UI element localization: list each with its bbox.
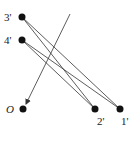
arrow-icon xyxy=(26,14,70,104)
point-p4 xyxy=(19,37,26,44)
point-label-p1: 1' xyxy=(121,115,129,127)
diagram-canvas: 3'4'O2'1' xyxy=(0,0,134,154)
point-label-p2: 2' xyxy=(97,115,105,127)
point-p3 xyxy=(19,14,26,21)
point-label-p4: 4' xyxy=(4,34,12,46)
edge-p4-p2 xyxy=(22,40,95,109)
edge-p3-p1 xyxy=(22,17,120,109)
point-p2 xyxy=(92,106,99,113)
point-label-pO: O xyxy=(6,103,14,115)
arrow-group xyxy=(26,14,70,104)
point-p1 xyxy=(117,106,124,113)
edge-p3-p2 xyxy=(22,17,95,109)
edges-group xyxy=(22,17,120,109)
edge-p4-p1 xyxy=(22,40,120,109)
point-pO xyxy=(20,106,27,113)
point-label-p3: 3' xyxy=(4,11,12,23)
